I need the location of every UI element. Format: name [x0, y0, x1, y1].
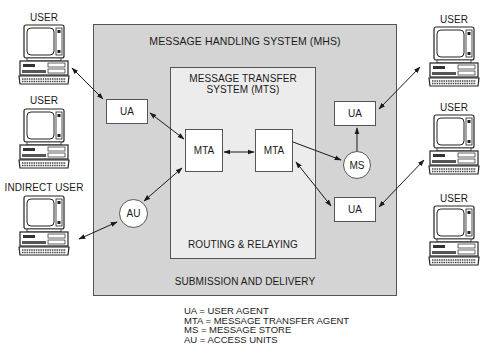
ua-right-bottom-label: UA [348, 204, 362, 215]
mta-left-node: MTA [185, 129, 223, 172]
ms-label: MS [350, 160, 365, 171]
mhs-title: MESSAGE HANDLING SYSTEM (MHS) [93, 35, 397, 47]
user-label-right-bottom: USER [424, 193, 484, 204]
mts-title-line1: MESSAGE TRANSFER [170, 73, 316, 84]
au-label: AU [127, 208, 141, 219]
ms-node: MS [343, 151, 371, 179]
mts-footer: ROUTING & RELAYING [170, 239, 316, 250]
computer-icon-right-bottom [428, 205, 480, 267]
user-label-left-middle: USER [14, 95, 74, 106]
user-label-left-top: USER [14, 12, 74, 23]
computer-icon-left-middle [18, 108, 70, 170]
user-label-right-top: USER [424, 14, 484, 25]
legend: UA = USER AGENT MTA = MESSAGE TRANSFER A… [184, 306, 349, 344]
ua-right-bottom-node: UA [334, 197, 376, 222]
computer-icon-left-top [18, 24, 70, 86]
computer-icon-right-middle [428, 114, 480, 176]
mta-right-label: MTA [264, 145, 284, 156]
user-label-right-middle: USER [424, 102, 484, 113]
ua-right-top-node: UA [334, 101, 376, 126]
mta-left-label: MTA [194, 145, 214, 156]
mta-right-node: MTA [255, 129, 293, 172]
computer-icon-right-top [428, 26, 480, 88]
mhs-footer: SUBMISSION AND DELIVERY [93, 276, 397, 287]
mts-title-line2: SYSTEM (MTS) [170, 84, 316, 95]
computer-icon-left-bottom [18, 195, 70, 257]
ua-left-label: UA [120, 106, 134, 117]
ua-right-top-label: UA [348, 108, 362, 119]
user-label-left-bottom: INDIRECT USER [2, 182, 86, 193]
au-node: AU [119, 199, 148, 228]
ua-left-node: UA [106, 99, 148, 124]
legend-item-au: AU = ACCESS UNITS [184, 335, 349, 345]
